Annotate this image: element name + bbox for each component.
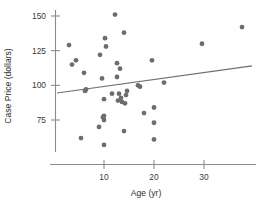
data-point <box>125 88 130 93</box>
data-point <box>152 120 157 125</box>
data-point <box>200 41 205 46</box>
y-tick-label-150: 150 <box>32 11 46 21</box>
data-point <box>100 76 105 81</box>
data-point <box>240 25 245 30</box>
data-point <box>82 70 87 75</box>
data-point <box>110 91 115 96</box>
x-axis-ticks: 102030 <box>99 160 209 182</box>
data-point <box>102 97 107 102</box>
data-point <box>97 125 102 130</box>
plot-canvas: 75100125150 102030 Age (yr) Case Price (… <box>0 0 260 211</box>
data-point <box>150 58 155 63</box>
data-point <box>102 113 107 118</box>
y-tick-label-125: 125 <box>32 46 46 56</box>
data-point <box>84 87 89 92</box>
data-point <box>119 95 124 100</box>
data-point <box>118 66 123 71</box>
data-point <box>117 91 122 96</box>
data-point <box>122 129 127 134</box>
data-point <box>74 58 79 63</box>
y-tick-label-75: 75 <box>37 115 47 125</box>
data-point <box>152 137 157 142</box>
data-point <box>102 143 107 148</box>
data-point <box>138 84 143 89</box>
x-axis-title: Age (yr) <box>131 188 162 198</box>
data-point <box>70 62 75 67</box>
x-tick-label-20: 20 <box>149 172 159 182</box>
data-point <box>67 43 72 48</box>
data-point <box>142 111 147 116</box>
x-tick-label-10: 10 <box>99 172 109 182</box>
data-point <box>123 101 128 106</box>
y-axis-title: Case Price (dollars) <box>3 48 13 124</box>
data-point <box>104 44 109 49</box>
data-point <box>79 136 84 141</box>
data-point <box>98 52 103 57</box>
y-tick-label-100: 100 <box>32 80 46 90</box>
data-point <box>103 36 108 41</box>
data-point <box>102 118 107 123</box>
scatter-chart: 75100125150 102030 Age (yr) Case Price (… <box>0 0 260 211</box>
data-point <box>113 12 118 17</box>
data-point <box>122 30 127 35</box>
data-point <box>152 105 157 110</box>
x-tick-label-30: 30 <box>199 172 209 182</box>
data-point <box>162 80 167 85</box>
data-point <box>115 75 120 80</box>
data-point <box>115 61 120 66</box>
data-point <box>124 93 129 98</box>
